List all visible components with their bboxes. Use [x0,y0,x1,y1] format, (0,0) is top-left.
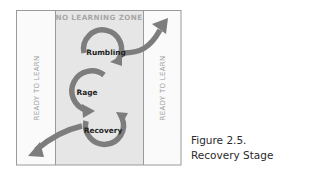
zone-title: NO LEARNING ZONE [56,13,143,22]
left-ready-label: READY TO LEARN [33,55,41,120]
stage-label-rage: Rage [77,88,98,97]
figure-caption: Figure 2.5. Recovery Stage [191,133,273,163]
stage-label-rumbling: Rumbling [86,48,126,57]
right-ready-label: READY TO LEARN [159,55,167,120]
figure-number: Figure 2.5. [191,133,273,148]
stage-label-recovery: Recovery [84,126,123,135]
figure-title: Recovery Stage [191,148,273,163]
